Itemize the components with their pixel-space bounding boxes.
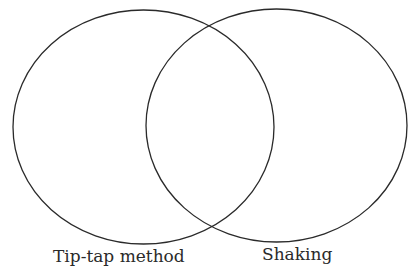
venn-circle-tip-tap <box>13 10 274 244</box>
set-label-tip-tap: Tip-tap method <box>53 246 185 266</box>
venn-circle-shaking <box>146 9 407 242</box>
set-label-shaking: Shaking <box>262 244 332 264</box>
venn-diagram <box>0 0 415 271</box>
